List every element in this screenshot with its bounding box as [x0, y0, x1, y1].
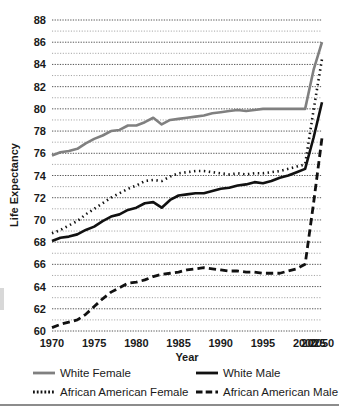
y-tick-label: 78 — [34, 125, 46, 137]
chart-legend: White FemaleWhite MaleAfrican American F… — [33, 367, 338, 398]
y-tick-label: 68 — [34, 236, 46, 248]
chart-canvas: 606264666870727476788082848688 197019751… — [0, 0, 339, 412]
legend-label: African American Male — [223, 386, 338, 398]
life-expectancy-chart: 606264666870727476788082848688 197019751… — [0, 0, 339, 412]
y-axis-title: Life Expectancy — [8, 142, 20, 227]
y-tick-label: 62 — [34, 303, 46, 315]
x-tick-label: 1980 — [124, 337, 148, 349]
series-line — [52, 138, 322, 328]
footer-divider — [0, 404, 339, 406]
y-tick-label: 74 — [34, 170, 47, 182]
x-tick-label: 1970 — [40, 337, 64, 349]
legend-label: White Male — [223, 367, 281, 379]
series-line — [52, 42, 322, 155]
y-tick-label: 72 — [34, 192, 46, 204]
y-tick-label: 80 — [34, 103, 46, 115]
page-edge-artifact — [0, 288, 4, 310]
x-tick-label: 1995 — [251, 337, 275, 349]
y-gridlines — [52, 20, 322, 331]
x-axis-title: Year — [175, 351, 199, 363]
x-tick-label: 1975 — [82, 337, 106, 349]
y-tick-label: 70 — [34, 214, 46, 226]
y-tick-label: 64 — [34, 281, 47, 293]
series-line — [52, 59, 322, 233]
legend-label: African American Female — [60, 386, 188, 398]
y-tick-label: 84 — [34, 58, 47, 70]
y-axis-tick-labels: 606264666870727476788082848688 — [34, 14, 47, 337]
y-tick-label: 86 — [34, 36, 46, 48]
y-tick-label: 82 — [34, 81, 46, 93]
x-tick-label: 1985 — [166, 337, 190, 349]
y-tick-label: 66 — [34, 258, 46, 270]
legend-label: White Female — [60, 367, 131, 379]
x-tick-label: 2050 — [310, 337, 334, 349]
y-tick-label: 76 — [34, 147, 46, 159]
y-tick-label: 88 — [34, 14, 46, 26]
x-axis-tick-labels: 197019751980198519901995200020252050 — [40, 337, 334, 349]
data-series-group — [52, 42, 322, 327]
x-tick-label: 1990 — [209, 337, 233, 349]
y-tick-label: 60 — [34, 325, 46, 337]
